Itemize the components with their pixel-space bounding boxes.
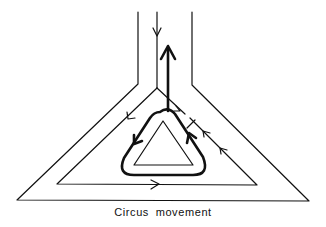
diagram-caption: Circus movement (0, 206, 326, 218)
outer-conduit (17, 12, 309, 201)
circus-movement-diagram (0, 0, 326, 227)
middle-pathway (57, 12, 257, 185)
exit-arrow-icon (161, 46, 175, 111)
block-marker (187, 120, 195, 128)
